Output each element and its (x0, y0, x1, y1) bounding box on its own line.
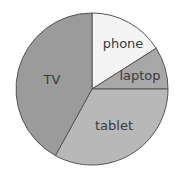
label-phone: phone (103, 36, 144, 51)
label-tablet: tablet (95, 118, 133, 133)
label-laptop: laptop (119, 68, 160, 83)
label-tv: TV (43, 72, 61, 87)
pie-slices (16, 13, 168, 165)
pie-chart: phone laptop tablet TV (0, 0, 178, 178)
